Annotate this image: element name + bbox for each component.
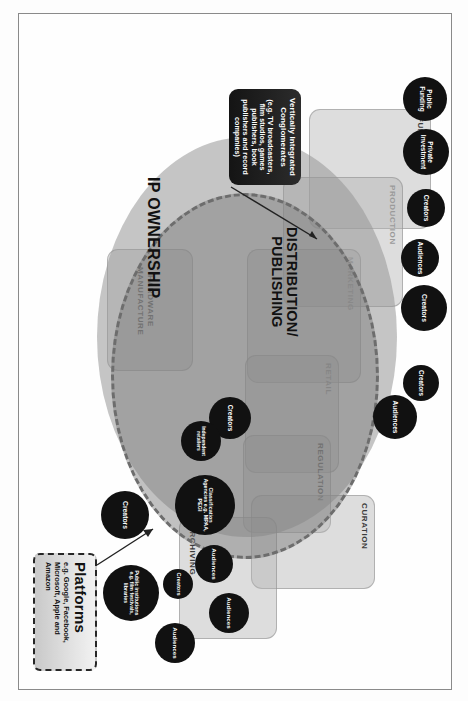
- diagram-page: FUNDING PRODUCTION MARKETING RETAIL REGU…: [0, 0, 468, 701]
- node-audiences-regulation: Audiences: [195, 545, 233, 583]
- node-label: Creators: [420, 293, 429, 323]
- node-label: Audiences: [171, 626, 179, 659]
- diagram-stage: FUNDING PRODUCTION MARKETING RETAIL REGU…: [21, 17, 449, 687]
- ellipse-label-distribution: DISTRIBUTION/ PUBLISHING: [269, 227, 299, 337]
- callout-body: e.g. Google, Facebook, Microsoft, Apple …: [43, 562, 70, 662]
- node-label: Creators: [422, 193, 431, 222]
- node-audiences-archiving: Audiences: [155, 623, 195, 663]
- node-creators-archiving: Creators: [163, 569, 193, 599]
- node-label: Independent retailers: [195, 421, 207, 461]
- node-creators-marketing: Creators: [401, 285, 447, 331]
- node-label: Audiences: [416, 240, 425, 275]
- node-creators-marketing-2: Creators: [403, 365, 439, 401]
- diagram-frame: FUNDING PRODUCTION MARKETING RETAIL REGU…: [18, 13, 452, 690]
- chain-label-curation: CURATION: [360, 503, 369, 549]
- node-independent-retailers: Independent retailers: [181, 421, 221, 461]
- node-label: Audiences: [391, 399, 400, 434]
- node-audiences-curation: Audiences: [209, 593, 249, 633]
- node-public-funding: Public Funding: [403, 77, 447, 121]
- callout-platforms: Platforms e.g. Google, Facebook, Microso…: [33, 553, 97, 671]
- node-label: Public institutions e.g. film festivals,…: [122, 565, 140, 621]
- ellipse-label-ip-ownership: IP OWNERSHIP: [144, 177, 161, 299]
- node-audiences-production: Audiences: [401, 239, 439, 277]
- callout-vertically-integrated-conglomerates: Vertically Integrated Conglomerates (e.g…: [229, 89, 301, 185]
- node-classification-agencies: Classification Agencies e.g. MPAA, PEGI: [175, 475, 235, 535]
- node-creators-hardware: Creators: [101, 491, 149, 539]
- node-label: Classification Agencies e.g. MPAA, PEGI: [196, 475, 215, 535]
- ellipse-label-distribution-line2: PUBLISHING: [269, 227, 284, 337]
- node-public-institutions: Public institutions e.g. film festivals,…: [103, 565, 159, 621]
- node-private-investment: Private Investment: [403, 129, 449, 175]
- node-label: Audiences: [225, 596, 233, 629]
- ellipse-label-distribution-line1: DISTRIBUTION/: [284, 227, 299, 337]
- node-label: Creators: [226, 403, 235, 432]
- node-label: Audiences: [210, 547, 218, 580]
- callout-title: Vertically Integrated Conglomerates: [278, 95, 296, 179]
- node-audiences-marketing: Audiences: [373, 395, 417, 439]
- node-label: Creators: [417, 369, 425, 397]
- node-creators-production: Creators: [407, 189, 445, 227]
- node-label: Creators: [174, 571, 182, 596]
- node-label: Creators: [121, 500, 130, 530]
- callout-title: Platforms: [72, 562, 89, 662]
- node-label: Private Investment: [418, 129, 433, 175]
- callout-body: (e.g. TV broadcasters, film studios, gam…: [233, 95, 274, 179]
- chain-label-production: PRODUCTION: [388, 185, 397, 245]
- node-label: Public Funding: [417, 77, 432, 121]
